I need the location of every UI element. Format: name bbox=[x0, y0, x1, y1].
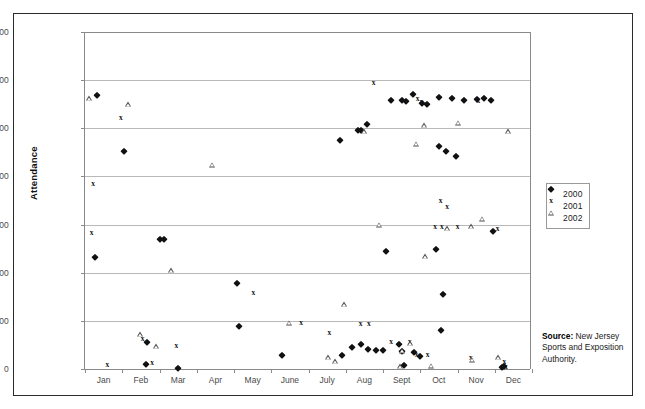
data-point-2000 bbox=[372, 346, 378, 352]
x-tick-mark bbox=[309, 369, 310, 373]
data-point-2001 bbox=[174, 343, 178, 351]
data-point-2000 bbox=[452, 153, 458, 159]
data-point-2000 bbox=[480, 95, 486, 101]
x-tick-mark bbox=[85, 369, 86, 373]
data-point-2000 bbox=[383, 247, 389, 253]
data-point-2000 bbox=[440, 291, 446, 297]
data-point-2000 bbox=[236, 323, 242, 329]
data-point-2000 bbox=[337, 137, 343, 143]
x-tick-mark bbox=[197, 369, 198, 373]
data-point-2001 bbox=[359, 320, 363, 328]
data-point-2002 bbox=[286, 320, 292, 325]
data-point-2002 bbox=[361, 129, 367, 134]
legend-label: 2000 bbox=[563, 189, 583, 199]
data-point-2002 bbox=[422, 254, 428, 259]
data-point-2002 bbox=[421, 123, 427, 128]
data-point-2002 bbox=[495, 355, 501, 360]
data-point-2000 bbox=[234, 280, 240, 286]
y-tick-mark bbox=[81, 32, 85, 33]
x-tick-label-apr: Apr bbox=[209, 375, 222, 385]
data-point-2002 bbox=[505, 129, 511, 134]
data-point-2000 bbox=[435, 94, 441, 100]
data-point-2001 bbox=[415, 351, 419, 359]
y-tick-mark bbox=[81, 321, 85, 322]
data-point-2002 bbox=[325, 354, 331, 359]
data-point-2001 bbox=[251, 290, 255, 298]
data-point-2001 bbox=[389, 338, 393, 346]
data-point-2000 bbox=[449, 95, 455, 101]
x-tick-mark bbox=[383, 369, 384, 373]
y-tick-label: 70,000 bbox=[0, 27, 9, 37]
data-point-2002 bbox=[469, 357, 475, 362]
data-point-2001 bbox=[299, 319, 303, 327]
data-point-2001 bbox=[445, 203, 449, 211]
x-tick-label-nov: Nov bbox=[469, 375, 484, 385]
y-tick-mark bbox=[81, 80, 85, 81]
data-point-2002 bbox=[444, 225, 450, 230]
y-tick-mark bbox=[81, 225, 85, 226]
data-point-2002 bbox=[468, 224, 474, 229]
x-tick-label-feb: Feb bbox=[134, 375, 149, 385]
data-point-2001 bbox=[91, 180, 95, 188]
x-tick-label-july: July bbox=[320, 375, 335, 385]
data-point-2001 bbox=[105, 361, 109, 369]
data-point-2002 bbox=[397, 364, 403, 369]
y-tick-label: 50,000 bbox=[0, 123, 9, 133]
x-tick-mark bbox=[458, 369, 459, 373]
data-point-2002 bbox=[332, 359, 338, 364]
gridline bbox=[85, 225, 530, 226]
gridline bbox=[85, 128, 530, 129]
plot-area: 010,00020,00030,00040,00050,00060,00070,… bbox=[84, 32, 531, 369]
data-point-2000 bbox=[92, 254, 98, 260]
y-tick-label: 30,000 bbox=[0, 220, 9, 230]
data-point-2002 bbox=[479, 216, 485, 221]
data-point-2000 bbox=[358, 341, 364, 347]
gridline bbox=[85, 80, 530, 81]
data-point-2001 bbox=[372, 79, 376, 87]
data-point-2000 bbox=[365, 346, 371, 352]
y-tick-label: 20,000 bbox=[0, 268, 9, 278]
chart-figure: Attendance 010,00020,00030,00040,00050,0… bbox=[13, 13, 633, 396]
legend-item-2000[interactable]: 2000 bbox=[551, 188, 583, 200]
data-point-2001 bbox=[456, 224, 460, 232]
y-tick-label: 60,000 bbox=[0, 75, 9, 85]
legend-label: 2001 bbox=[563, 201, 583, 211]
data-point-2000 bbox=[364, 121, 370, 127]
data-point-2002 bbox=[137, 332, 143, 337]
data-point-2000 bbox=[436, 142, 442, 148]
x-tick-mark bbox=[495, 369, 496, 373]
data-point-2000 bbox=[94, 91, 100, 97]
x-tick-mark bbox=[346, 369, 347, 373]
data-point-2001 bbox=[119, 114, 123, 122]
legend-marker-icon bbox=[551, 213, 562, 224]
data-point-2001 bbox=[420, 99, 424, 107]
gridline bbox=[85, 369, 530, 370]
x-tick-label-oct: Oct bbox=[432, 375, 445, 385]
x-tick-mark bbox=[160, 369, 161, 373]
legend-item-2002[interactable]: 2002 bbox=[551, 212, 583, 224]
data-point-2000 bbox=[437, 327, 443, 333]
gridline bbox=[85, 321, 530, 322]
data-point-2000 bbox=[488, 97, 494, 103]
gridline bbox=[85, 32, 530, 33]
x-tick-label-may: May bbox=[245, 375, 261, 385]
y-tick-mark bbox=[81, 273, 85, 274]
data-point-2002 bbox=[86, 96, 92, 101]
x-tick-mark bbox=[271, 369, 272, 373]
data-point-2000 bbox=[349, 344, 355, 350]
legend-item-2001[interactable]: 2001 bbox=[551, 200, 583, 212]
data-point-2000 bbox=[339, 351, 345, 357]
data-point-2000 bbox=[388, 97, 394, 103]
chart-legend: 200020012002 bbox=[546, 183, 590, 229]
data-point-2000 bbox=[161, 236, 167, 242]
x-tick-label-sept: Sept bbox=[393, 375, 411, 385]
x-tick-mark bbox=[532, 369, 533, 373]
data-point-2002 bbox=[399, 348, 405, 353]
y-tick-label: 0 bbox=[4, 364, 9, 374]
data-point-2000 bbox=[443, 148, 449, 154]
data-point-2002 bbox=[153, 344, 159, 349]
data-point-2001 bbox=[150, 359, 154, 367]
y-axis-title: Attendance bbox=[28, 146, 39, 200]
data-point-2002 bbox=[209, 162, 215, 167]
x-tick-mark bbox=[420, 369, 421, 373]
